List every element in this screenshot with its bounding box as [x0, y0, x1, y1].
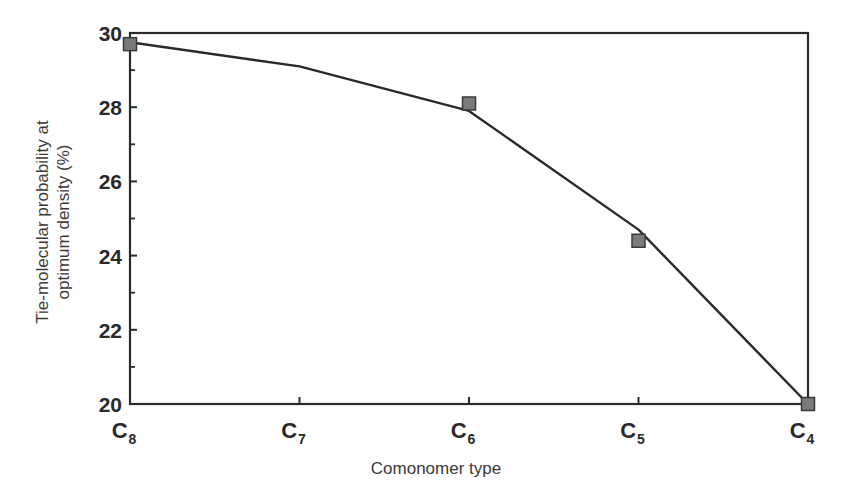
line-chart: 202224262830 C8C7C6C5C4 Comonomer type T… [0, 0, 853, 499]
square-marker-C8 [124, 38, 137, 51]
data-point-markers [124, 38, 815, 411]
y-axis-tick-labels: 202224262830 [99, 22, 123, 416]
x-category-label: C4 [790, 418, 815, 447]
y-tick-label: 28 [99, 96, 123, 119]
y-tick-label: 30 [99, 22, 122, 45]
x-category-label: C8 [112, 418, 137, 447]
x-category-label: C5 [620, 418, 645, 447]
y-tick-label: 20 [99, 393, 122, 416]
y-tick-label: 22 [99, 319, 122, 342]
y-axis-title-line-2: optimum density (%) [54, 145, 73, 300]
x-axis-title: Comonomer type [371, 459, 501, 478]
y-tick-label: 26 [99, 170, 122, 193]
x-category-label: C7 [281, 418, 306, 447]
plot-frame [130, 33, 808, 404]
y-axis-title-line-1: Tie-molecular probability at [33, 120, 52, 324]
x-axis-category-labels: C8C7C6C5C4 [112, 418, 815, 447]
square-marker-C5 [632, 234, 645, 247]
x-category-label: C6 [451, 418, 476, 447]
square-marker-C4 [802, 398, 815, 411]
plot-border [130, 33, 808, 404]
square-marker-C6 [463, 97, 476, 110]
y-tick-label: 24 [99, 245, 123, 268]
